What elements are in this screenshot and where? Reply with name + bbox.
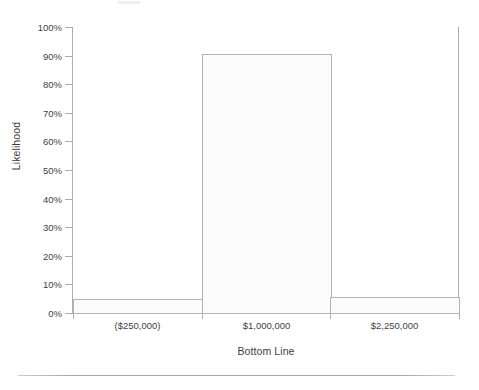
y-tick-label: 70% [24,107,62,118]
y-tick-mark [65,256,73,257]
y-tick-label: 80% [24,79,62,90]
bar [73,299,203,314]
y-tick-label: 0% [24,308,62,319]
bar-chart: Likelihood 0%10%20%30%40%50%60%70%80%90%… [0,0,479,390]
y-tick-mark [65,141,73,142]
y-tick-label: 90% [24,50,62,61]
y-tick-label-wrap: 30% [20,227,62,228]
y-tick-label: 50% [24,165,62,176]
x-tick-label: ($250,000) [73,320,202,331]
y-tick-label: 60% [24,136,62,147]
bottom-divider [18,375,455,376]
x-tick-label: $2,250,000 [330,320,459,331]
y-tick-mark [65,113,73,114]
y-tick-label: 30% [24,222,62,233]
y-tick-label-wrap: 80% [20,84,62,85]
bar [202,54,332,314]
y-tick-label-wrap: 20% [20,256,62,257]
y-tick-mark [65,199,73,200]
x-tick-mark [330,313,331,319]
y-tick-label-wrap: 50% [20,170,62,171]
bar [330,297,460,314]
x-tick-mark [202,313,203,319]
y-tick-label-wrap: 90% [20,56,62,57]
y-tick-label: 10% [24,279,62,290]
x-tick-mark [73,313,74,319]
y-tick-mark [65,56,73,57]
y-tick-label-wrap: 0% [20,313,62,314]
x-tick-label: $1,000,000 [202,320,331,331]
y-tick-mark [65,313,73,314]
scan-artifact [118,1,140,4]
y-tick-mark [65,284,73,285]
y-tick-label: 20% [24,250,62,261]
x-tick-mark [459,313,460,319]
y-tick-label-wrap: 10% [20,284,62,285]
y-tick-mark [65,27,73,28]
y-tick-label: 40% [24,193,62,204]
x-axis-title: Bottom Line [73,345,459,357]
y-axis-title: Likelihood [10,101,22,191]
y-tick-label: 100% [24,22,62,33]
y-tick-label-wrap: 40% [20,199,62,200]
y-tick-mark [65,227,73,228]
y-tick-label-wrap: 70% [20,113,62,114]
y-tick-mark [65,84,73,85]
plot-right-border [458,27,459,314]
y-tick-label-wrap: 60% [20,141,62,142]
y-tick-label-wrap: 100% [20,27,62,28]
y-tick-mark [65,170,73,171]
